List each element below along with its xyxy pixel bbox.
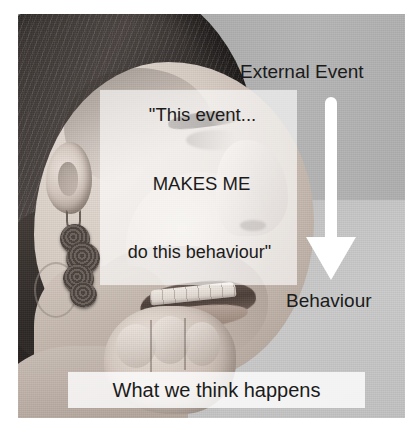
finger-separation bbox=[184, 318, 186, 370]
photo-plate: "This event... MAKES ME do this behaviou… bbox=[18, 14, 405, 418]
finger-separation bbox=[150, 320, 152, 372]
arrow-shaft bbox=[325, 97, 337, 249]
down-arrow-icon bbox=[306, 97, 356, 280]
ear bbox=[46, 142, 92, 214]
quote-line-1: "This event... bbox=[100, 106, 297, 125]
caption-text: What we think happens bbox=[113, 380, 321, 400]
quote-line-2: MAKES ME bbox=[100, 175, 297, 194]
ear-inner-shadow bbox=[58, 162, 78, 196]
slide-canvas: "This event... MAKES ME do this behaviou… bbox=[0, 0, 413, 446]
knuckle bbox=[184, 322, 220, 366]
label-external-event: External Event bbox=[240, 62, 364, 81]
quote-line-3: do this behaviour" bbox=[100, 243, 297, 261]
arrow-head bbox=[306, 237, 356, 280]
quote-panel: "This event... MAKES ME do this behaviou… bbox=[100, 90, 297, 285]
caption-bar: What we think happens bbox=[68, 372, 365, 408]
label-behaviour: Behaviour bbox=[286, 291, 372, 310]
